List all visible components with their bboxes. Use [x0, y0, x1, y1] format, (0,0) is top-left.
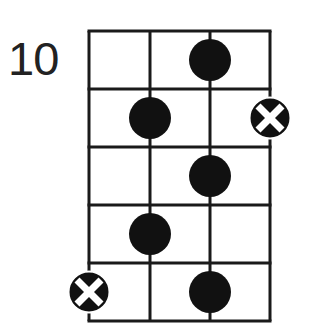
root-note-x-marker: [250, 98, 291, 139]
fretboard-diagram: [0, 0, 313, 334]
note-dot: [189, 155, 231, 197]
note-dot: [129, 97, 171, 139]
note-dot: [189, 271, 231, 313]
note-dot: [189, 39, 231, 81]
fretboard-grid: [88, 31, 272, 321]
note-markers: [69, 39, 291, 313]
note-dot: [129, 213, 171, 255]
root-note-x-marker: [69, 272, 110, 313]
